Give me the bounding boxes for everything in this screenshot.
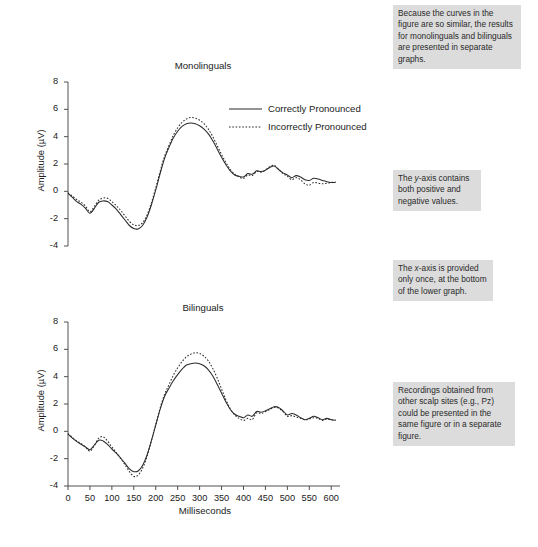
chart-monolinguals: Monolinguals Amplitude (µV) -4-202468 bbox=[0, 60, 390, 290]
annotation-similar-curves: Because the curves in the figure are so … bbox=[393, 5, 521, 69]
y-tick-label: -2 bbox=[40, 453, 58, 463]
chart-bilinguals: Bilinguals Amplitude (µV) Milliseconds -… bbox=[0, 300, 390, 547]
y-tick-label: 4 bbox=[40, 131, 58, 141]
chart-title-monolinguals: Monolinguals bbox=[128, 60, 278, 71]
y-tick-label: 4 bbox=[40, 371, 58, 381]
annotation-x-axis: The x-axis is provided only once, at the… bbox=[393, 260, 493, 301]
x-axis-label-bilinguals: Milliseconds bbox=[140, 505, 270, 516]
legend-swatches bbox=[229, 103, 265, 139]
plot-area-monolinguals bbox=[0, 60, 390, 290]
figure-root: Because the curves in the figure are so … bbox=[0, 0, 538, 547]
trace-correctly-pronounced bbox=[68, 363, 336, 472]
y-tick-label: -4 bbox=[40, 480, 58, 490]
y-tick-label: 2 bbox=[40, 158, 58, 168]
y-tick-label: 2 bbox=[40, 398, 58, 408]
y-tick-label: 0 bbox=[40, 185, 58, 195]
y-tick-label: 6 bbox=[40, 343, 58, 353]
y-tick-label: 0 bbox=[40, 425, 58, 435]
y-tick-label: 6 bbox=[40, 103, 58, 113]
annotation-y-axis: The y-axis contains both positive and ne… bbox=[393, 170, 481, 211]
chart-title-bilinguals: Bilinguals bbox=[128, 302, 278, 313]
y-tick-label: -4 bbox=[40, 240, 58, 250]
annotation-scalp-sites: Recordings obtained from other scalp sit… bbox=[393, 382, 515, 446]
trace-incorrectly-pronounced bbox=[68, 118, 336, 226]
legend-label-incorrect: Incorrectly Pronounced bbox=[268, 121, 367, 132]
y-tick-label: 8 bbox=[40, 316, 58, 326]
x-tick-label: 600 bbox=[315, 493, 347, 503]
y-tick-label: -2 bbox=[40, 213, 58, 223]
trace-correctly-pronounced bbox=[68, 123, 336, 229]
plot-area-bilinguals bbox=[0, 300, 390, 500]
legend-label-correct: Correctly Pronounced bbox=[268, 103, 361, 114]
y-tick-label: 8 bbox=[40, 76, 58, 86]
